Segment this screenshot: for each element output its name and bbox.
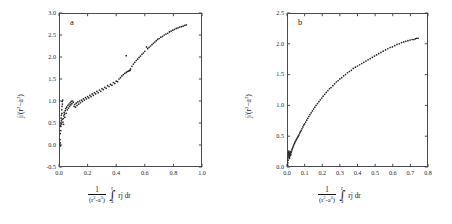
y-tick-label: 0.5	[261, 133, 284, 139]
data-point	[147, 48, 149, 50]
x-tick-label: 0.0	[47, 170, 71, 176]
data-point	[61, 123, 63, 125]
data-point	[112, 82, 114, 84]
data-point	[162, 35, 164, 37]
data-point	[78, 103, 80, 105]
data-point	[148, 46, 150, 48]
data-point	[138, 57, 140, 59]
data-point	[62, 99, 64, 101]
data-point	[349, 71, 351, 73]
data-point	[341, 77, 343, 79]
data-point	[304, 123, 306, 125]
data-point	[378, 53, 380, 55]
data-point	[309, 114, 311, 116]
data-point	[100, 90, 102, 92]
data-point	[123, 74, 125, 76]
data-point	[62, 103, 64, 105]
data-point	[60, 145, 62, 147]
data-point	[130, 68, 132, 70]
data-point	[306, 119, 308, 121]
data-point	[185, 24, 187, 26]
data-point	[380, 52, 382, 54]
y-tick-label: 0.0	[261, 164, 284, 170]
data-point	[167, 32, 169, 34]
data-point	[385, 49, 387, 51]
data-point	[327, 90, 329, 92]
data-point	[407, 40, 409, 42]
x-title-numerator-b: 1	[323, 187, 331, 194]
data-point	[61, 114, 63, 116]
data-point	[65, 112, 67, 114]
data-point	[325, 92, 327, 94]
data-point	[367, 59, 369, 61]
data-point	[74, 104, 76, 106]
y-tick-label: 2.0	[33, 54, 56, 60]
data-point	[401, 42, 403, 44]
data-point	[314, 106, 316, 108]
data-point	[172, 29, 174, 31]
data-point	[75, 102, 77, 104]
data-point	[350, 69, 352, 71]
data-point	[124, 72, 126, 74]
data-point	[154, 41, 156, 43]
y-tick-label: 1.5	[33, 76, 56, 82]
x-tick-label: 0.6	[133, 170, 157, 176]
data-point	[95, 93, 97, 95]
data-point	[99, 89, 101, 91]
data-point	[94, 92, 96, 94]
data-point	[63, 123, 65, 125]
data-point	[307, 117, 309, 119]
data-point	[70, 104, 72, 106]
data-point	[80, 102, 82, 104]
data-point	[287, 159, 289, 161]
data-point	[369, 58, 371, 60]
data-point	[357, 65, 359, 67]
data-point	[134, 61, 136, 63]
y-tick-label: 1.0	[261, 102, 284, 108]
data-point	[163, 34, 165, 36]
data-point	[92, 94, 94, 96]
data-point	[322, 95, 324, 97]
data-point	[158, 38, 160, 40]
y-axis-title-b: j/(r2−a2)	[244, 94, 253, 118]
data-point	[403, 41, 405, 43]
data-point	[302, 126, 304, 128]
data-point	[66, 109, 68, 111]
data-point	[155, 40, 157, 42]
data-point	[60, 126, 62, 128]
data-point	[71, 103, 73, 105]
data-point	[105, 87, 107, 89]
data-point	[337, 80, 339, 82]
data-point	[321, 97, 323, 99]
data-point	[318, 101, 320, 103]
data-point	[310, 112, 312, 114]
data-point	[66, 106, 68, 108]
data-point	[411, 39, 413, 41]
data-point	[104, 87, 106, 89]
data-point	[298, 134, 300, 136]
data-point	[371, 57, 373, 59]
data-point	[313, 108, 315, 110]
data-point	[175, 28, 177, 30]
data-point	[177, 27, 179, 29]
data-point	[387, 48, 389, 50]
data-point	[84, 99, 86, 101]
data-point	[382, 50, 384, 52]
data-point	[144, 50, 146, 52]
data-point	[317, 103, 319, 105]
data-point	[97, 92, 99, 94]
data-point	[347, 72, 349, 74]
data-point	[133, 63, 135, 65]
data-point	[62, 118, 64, 120]
data-point	[300, 130, 302, 132]
data-point	[153, 43, 155, 45]
data-point	[150, 45, 152, 47]
data-point	[63, 112, 65, 114]
data-point	[174, 28, 176, 30]
data-point	[68, 103, 70, 105]
y-tick-label: 2.5	[261, 10, 284, 16]
data-point	[343, 75, 345, 77]
data-point	[108, 86, 110, 88]
data-point	[363, 61, 365, 63]
integral-symbol-a: r ∫ a	[109, 186, 115, 204]
